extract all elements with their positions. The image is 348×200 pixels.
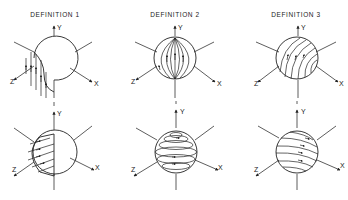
svg-text:Z: Z bbox=[12, 166, 17, 173]
svg-text:Z: Z bbox=[10, 78, 15, 85]
svg-text:Y: Y bbox=[57, 110, 62, 117]
svg-text:Z: Z bbox=[254, 166, 259, 173]
svg-text:X: X bbox=[95, 164, 100, 171]
axes: Y Z X bbox=[254, 101, 345, 190]
axes: Y Z X bbox=[12, 102, 100, 190]
svg-text:X: X bbox=[217, 80, 222, 87]
svg-text:X: X bbox=[339, 80, 344, 87]
meridian-flow-lines bbox=[159, 38, 189, 79]
axes: Y Z X bbox=[131, 101, 223, 190]
svg-text:Y: Y bbox=[301, 108, 306, 115]
sphere-outline-half bbox=[34, 36, 78, 80]
svg-text:Z: Z bbox=[131, 78, 136, 85]
panel-2-top: Y Z X bbox=[131, 24, 222, 98]
panel-2-bottom: Y Z X bbox=[131, 101, 223, 190]
diagram-canvas: Y Z X Y Z X bbox=[0, 0, 348, 200]
svg-text:X: X bbox=[94, 80, 99, 87]
svg-text:X: X bbox=[218, 164, 223, 171]
axes: Y Z X bbox=[254, 24, 344, 98]
tilted-latitude-flow-lines bbox=[276, 132, 318, 171]
svg-text:Y: Y bbox=[57, 24, 62, 31]
svg-text:Y: Y bbox=[301, 24, 306, 31]
panel-1-top: Y Z X bbox=[10, 24, 99, 98]
sphere bbox=[33, 130, 77, 174]
axes: Y Z X bbox=[10, 24, 99, 98]
panel-1-bottom: Y Z X bbox=[12, 102, 100, 190]
panel-3-top: Y Z X bbox=[254, 24, 344, 98]
svg-text:Z: Z bbox=[131, 166, 136, 173]
vertical-flow-lines bbox=[26, 52, 46, 98]
svg-text:Z: Z bbox=[254, 80, 259, 87]
panel-3-bottom: Y Z X bbox=[254, 101, 345, 190]
svg-text:X: X bbox=[340, 162, 345, 169]
latitude-flow-lines bbox=[156, 133, 197, 170]
axes: Y Z X bbox=[131, 24, 222, 98]
svg-text:Y: Y bbox=[180, 108, 185, 115]
svg-text:Y: Y bbox=[178, 24, 183, 31]
